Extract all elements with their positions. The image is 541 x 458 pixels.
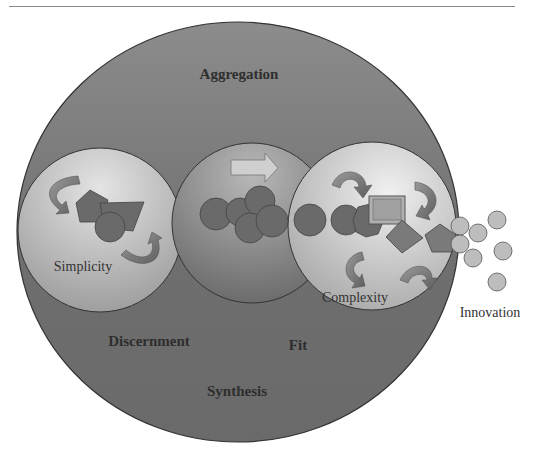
dot: [488, 273, 506, 291]
innovation-diagram: Aggregation Simplicity Complexity Innova…: [0, 0, 541, 458]
circle-shape: [95, 212, 125, 242]
label-simplicity: Simplicity: [54, 259, 112, 274]
label-complexity: Complexity: [322, 290, 388, 305]
circle-shape: [256, 205, 288, 237]
label-innovation: Innovation: [460, 305, 521, 320]
innovation-dots: [451, 211, 512, 291]
circle-shape: [294, 204, 326, 236]
dot: [488, 211, 506, 229]
label-synthesis: Synthesis: [207, 383, 267, 399]
dot: [451, 235, 469, 253]
dot: [451, 217, 469, 235]
label-discernment: Discernment: [108, 333, 190, 349]
square-inner: [373, 199, 401, 220]
label-fit: Fit: [289, 337, 307, 353]
label-aggregation: Aggregation: [200, 66, 280, 82]
dot: [494, 242, 512, 260]
dot: [464, 249, 482, 267]
dot: [469, 224, 487, 242]
